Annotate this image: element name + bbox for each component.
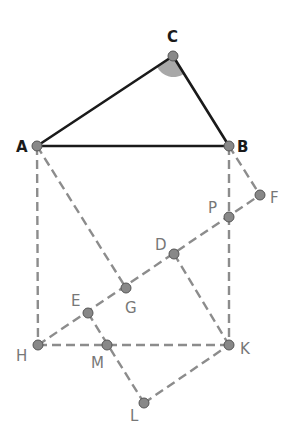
geometry-diagram: C A B F P D G E H M K L [0, 0, 296, 437]
point-C [168, 51, 178, 61]
label-D: D [155, 236, 167, 254]
segment-LK [144, 345, 229, 403]
point-M [102, 340, 112, 350]
segment-AH [37, 146, 38, 345]
point-A [32, 141, 42, 151]
label-M: M [91, 354, 104, 372]
point-G [121, 283, 131, 293]
point-E [83, 308, 93, 318]
segment-CB [173, 56, 229, 146]
point-P [224, 212, 234, 222]
label-H: H [16, 347, 27, 365]
point-H [33, 340, 43, 350]
point-B [224, 141, 234, 151]
segment-DK [174, 254, 229, 345]
label-B: B [237, 138, 248, 156]
point-K [224, 340, 234, 350]
segment-AG [37, 146, 126, 288]
point-D [169, 249, 179, 259]
point-L [139, 398, 149, 408]
label-G: G [125, 299, 137, 317]
label-F: F [270, 189, 279, 207]
point-F [255, 190, 265, 200]
label-P: P [208, 199, 217, 217]
label-C: C [167, 28, 178, 46]
label-E: E [71, 292, 80, 310]
label-L: L [130, 407, 139, 425]
segment-AC [37, 56, 173, 146]
label-A: A [16, 138, 28, 156]
label-K: K [240, 340, 251, 358]
